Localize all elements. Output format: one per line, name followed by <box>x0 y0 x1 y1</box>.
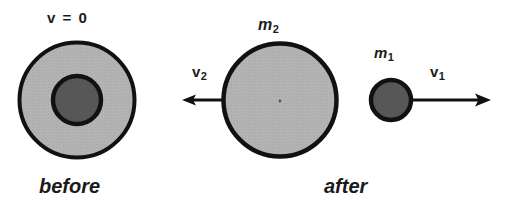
before-velocity-text: v = 0 <box>47 9 88 26</box>
m1-mass-symbol: m <box>374 44 387 61</box>
m2-mass-subscript: 2 <box>272 23 279 35</box>
v1-velocity-subscript: 1 <box>438 70 445 82</box>
before-body-group <box>20 43 135 158</box>
before-inner-circle-texture <box>55 78 99 122</box>
after-large-body-group <box>224 44 337 157</box>
v2-velocity-label: v2 <box>192 64 207 82</box>
m1-mass-subscript: 1 <box>387 51 394 63</box>
m1-circle-texture <box>373 82 409 118</box>
before-velocity-label: v = 0 <box>47 10 88 25</box>
m1-mass-label: m1 <box>374 45 394 63</box>
v2-velocity-subscript: 2 <box>200 70 207 82</box>
v1-arrow <box>410 94 491 107</box>
physics-explosion-figure: v = 0 m2 v2 m1 v1 before after <box>0 0 518 210</box>
m2-mass-symbol: m <box>258 16 272 33</box>
m2-mass-label: m2 <box>258 17 279 35</box>
after-caption: after <box>324 176 367 196</box>
v2-arrow <box>182 95 224 106</box>
after-small-body-group <box>371 80 411 120</box>
before-caption: before <box>39 176 100 196</box>
m2-center-dot <box>279 100 282 103</box>
v1-velocity-label: v1 <box>430 64 445 82</box>
